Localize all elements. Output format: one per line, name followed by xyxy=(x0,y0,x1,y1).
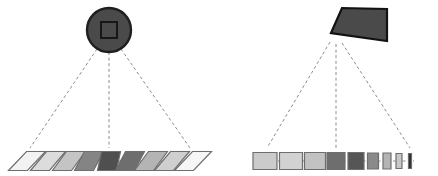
right-panel-patches xyxy=(253,153,412,170)
patch-5[interactable] xyxy=(348,153,364,170)
patch-2[interactable] xyxy=(280,153,303,170)
patch-8[interactable] xyxy=(396,154,402,169)
patch-7[interactable] xyxy=(383,153,391,169)
square-sensor-icon xyxy=(101,22,117,38)
patch-1[interactable] xyxy=(253,153,277,170)
projection-diagram-svg xyxy=(0,0,438,176)
patch-3[interactable] xyxy=(305,153,326,170)
patch-4[interactable] xyxy=(327,153,345,170)
left-panel-patches xyxy=(9,152,212,171)
patch-6[interactable] xyxy=(368,153,379,169)
circular-camera[interactable] xyxy=(87,8,131,52)
patch-9[interactable] xyxy=(409,154,412,169)
figure-root xyxy=(0,0,438,176)
